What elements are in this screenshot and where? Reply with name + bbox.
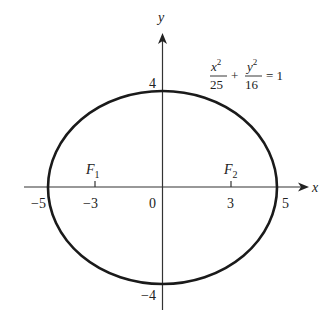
y-axis-label: y: [156, 10, 165, 25]
ellipse-diagram: y x −5 −3 0 3 5 4 −4 F1 F2 x2 25 + y2 16…: [0, 0, 335, 316]
focus-label-f1: F1: [85, 162, 100, 180]
equation-rhs: = 1: [266, 68, 283, 83]
equation-y-denominator: 16: [245, 77, 259, 92]
y-tick-label: −4: [141, 288, 156, 303]
diagram-canvas: y x −5 −3 0 3 5 4 −4 F1 F2 x2 25 + y2 16…: [0, 0, 335, 316]
x-tick-label: −5: [31, 196, 46, 211]
x-tick-label: 3: [227, 196, 234, 211]
focus-label-f2: F2: [223, 162, 238, 180]
x-axis-label: x: [311, 180, 319, 195]
equation-x-denominator: 25: [210, 77, 223, 92]
equation-y-numerator: y2: [245, 57, 257, 74]
x-tick-label: −3: [83, 196, 98, 211]
ellipse-equation: x2 25 + y2 16 = 1: [210, 57, 283, 92]
x-tick-label: 0: [149, 196, 156, 211]
y-tick-label: 4: [149, 76, 156, 91]
equation-plus: +: [231, 68, 238, 83]
x-tick-label: 5: [282, 196, 289, 211]
equation-x-numerator: x2: [210, 57, 221, 74]
